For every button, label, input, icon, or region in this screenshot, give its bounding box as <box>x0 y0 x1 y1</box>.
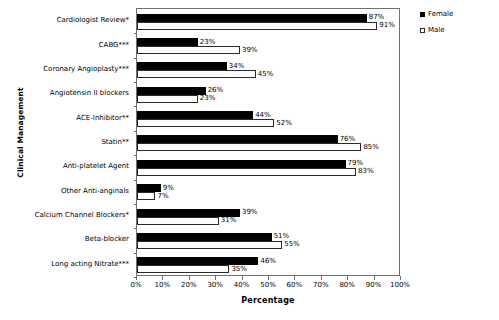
x-axis-tick-label: 10% <box>155 281 171 289</box>
legend-item[interactable]: Female <box>420 8 492 20</box>
y-axis-category-labels: Cardiologist Review*CABG***Coronary Angi… <box>0 8 133 276</box>
y-axis-category-label: Beta-blocker <box>85 235 129 243</box>
x-axis-tick <box>347 276 348 280</box>
bar-rect <box>137 265 229 273</box>
bar-male[interactable]: 23% <box>137 95 399 103</box>
bar-value-label: 46% <box>260 257 276 265</box>
bar-value-label: 51% <box>274 232 290 240</box>
bar-value-label: 26% <box>208 86 224 94</box>
bar-male[interactable]: 85% <box>137 143 399 151</box>
bar-group: 9%7% <box>137 180 399 204</box>
bar-rect <box>137 62 227 70</box>
x-axis-tick-label: 20% <box>181 281 197 289</box>
bar-rect <box>137 233 272 241</box>
open-square-icon <box>420 28 425 33</box>
bar-group: 39%31% <box>137 204 399 228</box>
x-axis-tick <box>136 276 137 280</box>
bar-female[interactable]: 44% <box>137 111 399 119</box>
bar-female[interactable]: 23% <box>137 38 399 46</box>
bar-value-label: 39% <box>242 46 258 54</box>
y-axis-category-label: Calcium Channel Blockers* <box>35 211 129 219</box>
x-axis-tick <box>321 276 322 280</box>
filled-square-icon <box>420 12 425 17</box>
x-axis-tick-label: 50% <box>260 281 276 289</box>
y-axis-category-label: Coronary Angioplasty*** <box>43 65 129 73</box>
bar-rect <box>137 14 367 22</box>
bar-group: 51%55% <box>137 228 399 252</box>
bar-group: 44%52% <box>137 106 399 130</box>
bar-female[interactable]: 76% <box>137 135 399 143</box>
bar-value-label: 34% <box>229 62 245 70</box>
bar-group: 26%23% <box>137 82 399 106</box>
bar-rect <box>137 87 206 95</box>
bar-rect <box>137 143 361 151</box>
bar-male[interactable]: 7% <box>137 192 399 200</box>
bar-rect <box>137 38 198 46</box>
bar-group: 87%91% <box>137 9 399 33</box>
bar-rect <box>137 192 155 200</box>
bar-rect <box>137 119 274 127</box>
y-axis-category-label: Long acting Nitrate*** <box>51 260 129 268</box>
x-axis-tick-label: 80% <box>339 281 355 289</box>
x-axis-tick <box>162 276 163 280</box>
bar-value-label: 52% <box>276 119 292 127</box>
bar-group: 79%83% <box>137 155 399 179</box>
chart-figure: Clinical Management Cardiologist Review*… <box>0 0 499 320</box>
bar-male[interactable]: 83% <box>137 168 399 176</box>
x-axis-tick-label: 0% <box>130 281 141 289</box>
y-axis-category-label: Other Anti-anginals <box>61 187 129 195</box>
bar-male[interactable]: 55% <box>137 241 399 249</box>
bar-rect <box>137 160 346 168</box>
bar-rect <box>137 46 240 54</box>
bar-value-label: 76% <box>340 135 356 143</box>
legend-item[interactable]: Male <box>420 24 492 36</box>
bar-male[interactable]: 39% <box>137 46 399 54</box>
bar-value-label: 9% <box>163 184 174 192</box>
bar-value-label: 44% <box>255 111 271 119</box>
bar-value-label: 7% <box>157 192 168 200</box>
bar-group: 34%45% <box>137 58 399 82</box>
bar-rect <box>137 95 198 103</box>
bar-rect <box>137 168 356 176</box>
bar-rect <box>137 111 253 119</box>
bar-value-label: 83% <box>358 167 374 175</box>
x-axis-tick <box>294 276 295 280</box>
y-axis-category-label: CABG*** <box>99 41 129 49</box>
x-axis-tick-label: 70% <box>313 281 329 289</box>
legend-item-label: Female <box>428 10 453 18</box>
bar-rect <box>137 70 256 78</box>
bar-group: 76%85% <box>137 131 399 155</box>
plot-area: 87%91%23%39%34%45%26%23%44%52%76%85%79%8… <box>136 8 400 276</box>
bar-value-label: 39% <box>242 208 258 216</box>
bar-female[interactable]: 26% <box>137 87 399 95</box>
bar-male[interactable]: 35% <box>137 265 399 273</box>
bar-rect <box>137 217 219 225</box>
y-axis-category-label: Cardiologist Review* <box>57 16 129 24</box>
bar-female[interactable]: 87% <box>137 14 399 22</box>
x-axis: 0%10%20%30%40%50%60%70%80%90%100% <box>136 276 400 277</box>
bar-male[interactable]: 45% <box>137 70 399 78</box>
x-axis-tick <box>374 276 375 280</box>
bar-female[interactable]: 39% <box>137 209 399 217</box>
bar-value-label: 35% <box>231 265 247 273</box>
x-axis-tick <box>268 276 269 280</box>
x-axis-tick-label: 90% <box>366 281 382 289</box>
bar-rect <box>137 22 377 30</box>
y-axis-category-label: ACE-Inhibitor** <box>76 114 129 122</box>
bar-value-label: 31% <box>221 216 237 224</box>
bar-value-label: 85% <box>363 143 379 151</box>
x-axis-tick <box>215 276 216 280</box>
x-axis-tick-label: 100% <box>390 281 410 289</box>
chart-legend: FemaleMale <box>420 8 492 40</box>
bar-female[interactable]: 46% <box>137 257 399 265</box>
bar-female[interactable]: 9% <box>137 184 399 192</box>
bar-male[interactable]: 31% <box>137 217 399 225</box>
x-axis-tick <box>242 276 243 280</box>
legend-item-label: Male <box>428 26 445 34</box>
bar-female[interactable]: 51% <box>137 233 399 241</box>
bar-value-label: 91% <box>379 21 395 29</box>
bar-value-label: 23% <box>200 38 216 46</box>
bar-male[interactable]: 52% <box>137 119 399 127</box>
bars-container: 87%91%23%39%34%45%26%23%44%52%76%85%79%8… <box>137 9 399 275</box>
bar-male[interactable]: 91% <box>137 22 399 30</box>
